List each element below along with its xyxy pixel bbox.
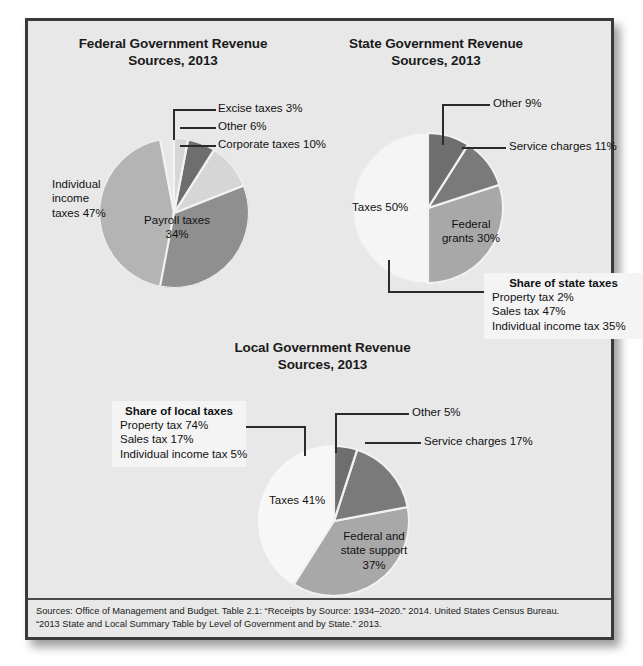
source-line-1: Sources: Office of Management and Budget… xyxy=(36,605,603,618)
callout-other: Other 5% xyxy=(412,406,461,418)
callout-other: Other 9% xyxy=(493,97,542,109)
leader-line-service-horizontal xyxy=(365,442,421,444)
callout-box-line-income: Individual income tax 35% xyxy=(492,319,635,333)
pie-local xyxy=(258,445,410,597)
callout-box-local-taxes: Share of local taxes Property tax 74% Sa… xyxy=(112,401,246,467)
title-line-2: Sources, 2013 xyxy=(278,357,368,372)
chart-title-state: State Government Revenue Sources, 2013 xyxy=(296,35,576,70)
leader-line-other-vertical xyxy=(442,104,444,145)
label-taxes: Taxes 41% xyxy=(269,493,325,507)
chart-panel-state: State Government Revenue Sources, 2013 O… xyxy=(316,35,616,335)
leader-line-local-box-horizontal xyxy=(243,426,305,428)
title-line-1: Local Government Revenue xyxy=(234,340,410,355)
leader-line-other-horizontal xyxy=(442,104,490,106)
sources-footnote: Sources: Office of Management and Budget… xyxy=(28,598,611,637)
title-line-1: State Government Revenue xyxy=(349,36,523,51)
label-taxes: Taxes 50% xyxy=(352,200,408,214)
title-line-2: Sources, 2013 xyxy=(391,53,481,68)
label-line-3: taxes 47% xyxy=(52,207,106,219)
leader-line-excise-vertical xyxy=(173,109,175,140)
leader-line-local-box-vertical xyxy=(304,426,306,456)
figure-container: Federal Government Revenue Sources, 2013 xyxy=(25,18,614,640)
callout-other: Other 6% xyxy=(218,120,267,132)
label-line-1: Individual xyxy=(52,178,101,190)
leader-line-corporate-horizontal xyxy=(180,145,216,147)
leader-line-other-horizontal xyxy=(335,413,409,415)
chart-panel-federal: Federal Government Revenue Sources, 2013 xyxy=(28,35,318,325)
callout-box-state-taxes: Share of state taxes Property tax 2% Sal… xyxy=(484,273,643,339)
label-line-2: grants 30% xyxy=(442,232,500,244)
label-line-1: Payroll taxes xyxy=(144,214,210,226)
label-line-2: 34% xyxy=(165,228,188,240)
leader-line-state-box-horizontal xyxy=(388,291,486,293)
label-line-3: 37% xyxy=(362,559,385,571)
leader-line-other-horizontal xyxy=(180,127,216,129)
callout-box-title: Share of state taxes xyxy=(492,277,635,289)
label-line-1: Federal xyxy=(452,218,491,230)
label-line-2: income xyxy=(52,192,89,204)
label-individual-income-taxes: Individual income taxes 47% xyxy=(52,177,106,220)
chart-title-federal: Federal Government Revenue Sources, 2013 xyxy=(28,35,318,70)
callout-excise-taxes: Excise taxes 3% xyxy=(218,102,302,114)
label-payroll-taxes: Payroll taxes 34% xyxy=(134,213,220,242)
label-line-2: state support xyxy=(341,544,407,556)
callout-box-line-property: Property tax 2% xyxy=(492,290,635,304)
source-line-2: “2013 State and Local Summary Table by L… xyxy=(36,618,603,631)
callout-service-charges: Service charges 17% xyxy=(424,435,533,447)
label-federal-grants: Federal grants 30% xyxy=(432,217,510,246)
callout-service-charges: Service charges 11% xyxy=(509,140,617,152)
chart-panel-local: Local Government Revenue Sources, 2013 O… xyxy=(28,339,617,629)
leader-line-service-horizontal xyxy=(462,147,506,149)
callout-box-line-sales: Sales tax 17% xyxy=(120,432,238,446)
callout-box-line-property: Property tax 74% xyxy=(120,418,238,432)
callout-box-title: Share of local taxes xyxy=(120,405,238,417)
title-line-1: Federal Government Revenue xyxy=(79,36,268,51)
label-line-1: Federal and xyxy=(343,530,404,542)
leader-line-other-vertical xyxy=(335,413,337,453)
callout-box-line-sales: Sales tax 47% xyxy=(492,304,635,318)
title-line-2: Sources, 2013 xyxy=(128,53,218,68)
callout-box-line-income: Individual income tax 5% xyxy=(120,447,238,461)
callout-corporate-taxes: Corporate taxes 10% xyxy=(218,138,326,150)
leader-line-state-box-vertical xyxy=(388,260,390,292)
chart-title-local: Local Government Revenue Sources, 2013 xyxy=(28,339,617,374)
leader-line-excise-horizontal xyxy=(173,109,216,111)
label-federal-state-support: Federal and state support 37% xyxy=(328,529,420,572)
